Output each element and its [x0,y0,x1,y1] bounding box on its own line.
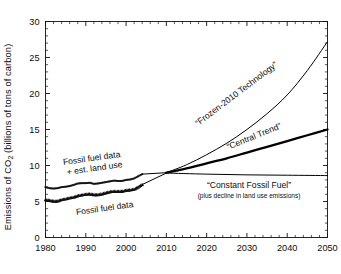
y-tick-label: 15 [29,125,39,135]
connector-upper [142,173,166,174]
y-tick-label: 10 [29,161,39,171]
x-tick-label: 2010 [156,243,176,253]
x-tick-label: 1990 [76,243,96,253]
annotation-constant-fossil-fuel: “Constant Fossil Fuel” [207,180,291,190]
data-series-group [44,42,328,203]
x-tick-labels: 19801990200020102020203020402050 [35,243,337,253]
x-tick-label: 1980 [35,243,55,253]
x-tick-label: 2030 [237,243,257,253]
x-tick-label: 2000 [116,243,136,253]
x-tick-label: 2020 [196,243,216,253]
emissions-chart: Emissions of CO2 (billions of tons of ca… [0,0,341,274]
y-tick-label: 20 [29,89,39,99]
plot-area: 051015202530 198019902000201020202030204… [0,0,341,274]
annotation-constant-fossil-fuel-sub: (plus decline in land use emissions) [198,192,301,200]
y-tick-label: 25 [29,53,39,63]
y-tick-label: 30 [29,17,39,27]
annotation-frozen-2010-technology: “Frozen-2010 Technology” [193,59,279,127]
y-tick-labels: 051015202530 [29,17,39,243]
x-tick-label: 2040 [277,243,297,253]
x-tick-label: 2050 [317,243,337,253]
y-tick-label: 0 [34,233,39,243]
series-4 [166,173,327,176]
annotation-fossil-fuel-data: Fossil fuel data [75,199,134,217]
connector-lower [142,173,166,185]
scenario-line [166,173,327,176]
y-tick-label: 5 [34,197,39,207]
series-0 [45,173,144,189]
annotation-central-trend: “Central Trend” [225,121,282,152]
